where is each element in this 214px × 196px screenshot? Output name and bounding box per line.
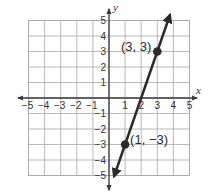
data-point xyxy=(153,47,162,56)
data-point xyxy=(121,140,130,149)
y-tick-label: 2 xyxy=(100,62,106,73)
x-tick-label: −3 xyxy=(54,100,66,111)
plotted-points: (3, 3)(1, −3) xyxy=(121,39,168,149)
x-tick-label: −2 xyxy=(70,100,82,111)
y-tick-label: −2 xyxy=(95,124,107,135)
point-label: (3, 3) xyxy=(121,39,151,54)
y-axis-label: y xyxy=(112,1,118,13)
x-tick-label: −4 xyxy=(38,100,50,111)
y-tick-label: −3 xyxy=(95,139,107,150)
graph-svg: xy −5−4−3−2−112345−5−4−3−2−112345 (3, 3)… xyxy=(0,0,214,196)
y-tick-label: 4 xyxy=(100,31,106,42)
x-tick-label: 4 xyxy=(171,100,177,111)
x-tick-label: 3 xyxy=(155,100,161,111)
y-tick-label: 5 xyxy=(100,15,106,26)
point-label: (1, −3) xyxy=(130,132,168,147)
y-tick-label: 3 xyxy=(100,46,106,57)
y-tick-label: −5 xyxy=(95,170,107,181)
x-tick-label: 1 xyxy=(122,100,128,111)
y-tick-label: −4 xyxy=(95,155,107,166)
coordinate-plane: xy −5−4−3−2−112345−5−4−3−2−112345 (3, 3)… xyxy=(0,0,214,196)
y-tick-label: 1 xyxy=(100,77,106,88)
x-tick-label: 5 xyxy=(187,100,193,111)
x-tick-label: −5 xyxy=(22,100,34,111)
y-tick-label: −1 xyxy=(95,108,107,119)
x-axis-label: x xyxy=(195,84,201,96)
